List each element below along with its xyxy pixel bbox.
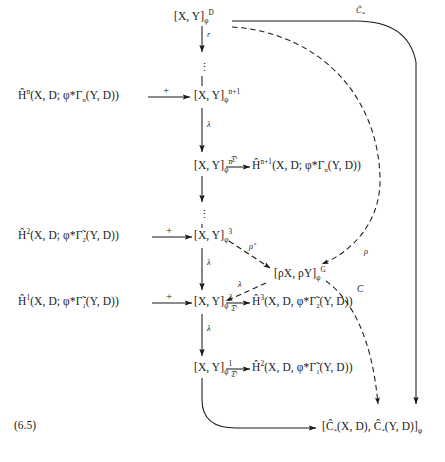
node-H2-left: Ĥ2(X, D; φ*Γ̃2(Y, D)) (18, 230, 119, 242)
label-plus-2: + (166, 225, 172, 236)
node-XY-phi-D: [X, Y]φD (174, 11, 214, 23)
node-rhoX-rhoY-G: [ρX, ρY]φG (274, 268, 326, 280)
node-Hn1-right: Ĥn+1(X, D; φ*Γn(Y, D)) (252, 160, 361, 172)
label-script-d-1: 𝔇 (230, 370, 237, 379)
curve-chat-star (232, 21, 416, 404)
label-plus-n: + (163, 85, 169, 96)
node-H1-left: Ĥ1(X, D; φ*Γ̃1(Y, D)) (18, 296, 119, 308)
label-lambda-2: λ (207, 259, 211, 267)
label-lambda-3: λ (207, 325, 211, 333)
node-XY-phi-1: [X, Y]φ1 (194, 362, 232, 374)
vertical-dots-1: ⋮ (199, 62, 210, 73)
node-Chat-star-bottom: [Ĉ*(X, D), Ĉ*(Y, D)]φ (322, 421, 422, 433)
label-Chat-star-curve: Ĉ* (356, 7, 365, 15)
node-XY-phi-3: [X, Y]φ3 (194, 230, 232, 242)
vertical-dots-2: ⋮ (199, 209, 210, 220)
label-rho-tilde: ρ̃ (249, 243, 253, 251)
curve-rho (232, 27, 380, 264)
label-rho: ρ (364, 248, 368, 256)
commutative-diagram-figure: [X, Y]φD ⋮ Ĥn(X, D; φ*Γn(Y, D)) [X, Y]φn… (0, 0, 445, 462)
node-Hn-left: Ĥn(X, D; φ*Γn(Y, D)) (18, 90, 119, 102)
label-C: C (357, 285, 363, 295)
node-XY-phi-2: [X, Y]φ2 (194, 296, 232, 308)
label-script-d-n: 𝔇 (230, 155, 237, 164)
label-r: r (207, 31, 210, 39)
label-script-d-2: 𝔇 (230, 304, 237, 313)
node-XY-phi-n: [X, Y]φn (194, 160, 232, 172)
label-plus-1: + (166, 291, 172, 302)
curve-bottom-to-chat (202, 378, 316, 428)
label-lambda-1: λ (207, 121, 211, 129)
equation-number: (6.5) (14, 419, 36, 431)
node-XY-phi-n-plus-1: [X, Y]φn+1 (194, 90, 240, 102)
node-H2-right: Ĥ2(X, D, φ*Γ̃1(Y, D)) (252, 362, 353, 374)
label-lambda-diagonal: λ (238, 281, 242, 289)
node-H3-right: Ĥ3(X, D, φ*Γ̃2(Y, D)) (252, 296, 353, 308)
